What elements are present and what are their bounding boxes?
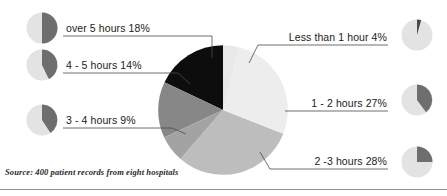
callout-label-3-4-hours: 3 - 4 hours 9% (66, 114, 136, 126)
pie-slice-icon-less-than-1-hour (402, 20, 433, 51)
pie-chart-figure: over 5 hours 18% 4 - 5 hours 14% 3 - 4 h… (0, 0, 447, 196)
callout-label-less-than-1-hour: Less than 1 hour 4% (289, 31, 387, 43)
leader-line-less-than-1-hour (249, 45, 388, 63)
pie-slice-icon-2-3-hours (402, 147, 433, 178)
callout-label-over-5-hours: over 5 hours 18% (66, 22, 150, 34)
callout-label-4-5-hours: 4 - 5 hours 14% (66, 59, 142, 71)
main-pie (158, 45, 288, 175)
pie-slice-icon-1-2-hours (402, 85, 433, 116)
bottom-divider (0, 189, 447, 190)
pie-slice-icon-4-5-hours (27, 50, 58, 81)
callout-label-2-3-hours: 2 -3 hours 28% (314, 155, 387, 167)
callout-label-1-2-hours: 1 - 2 hours 27% (311, 97, 387, 109)
pie-slice-icon-over-5-hours (27, 13, 58, 44)
pie-slice-icon-3-4-hours (27, 105, 58, 136)
source-note: Source: 400 patient records from eight h… (5, 167, 178, 177)
